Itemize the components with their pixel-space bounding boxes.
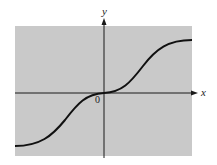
y-axis-arrow-icon (102, 18, 107, 25)
graph (0, 0, 217, 165)
y-axis-label: y (102, 6, 107, 17)
x-axis-label: x (201, 87, 206, 98)
x-axis-arrow-icon (191, 91, 198, 96)
origin-label: 0 (95, 95, 100, 105)
